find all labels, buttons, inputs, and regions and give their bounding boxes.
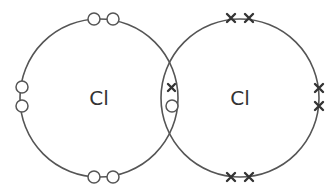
dot-electron-icon xyxy=(88,171,100,183)
shared-cross-electron-icon xyxy=(168,84,175,91)
right-atom-symbol: Cl xyxy=(230,86,250,110)
cross-electron-icon xyxy=(227,14,235,22)
cl2-dot-cross-diagram: Cl Cl xyxy=(0,0,335,194)
dot-electron-icon xyxy=(16,100,28,112)
dot-electron-icon xyxy=(107,13,119,25)
shared-dot-electron-icon xyxy=(166,100,178,112)
cross-electron-icon xyxy=(245,14,253,22)
left-atom-symbol: Cl xyxy=(89,86,109,110)
dot-electron-icon xyxy=(88,13,100,25)
dot-electron-icon xyxy=(107,171,119,183)
dot-electron-icon xyxy=(16,81,28,93)
